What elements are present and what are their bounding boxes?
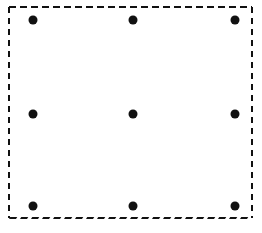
- dot-row3-col2: [129, 202, 138, 211]
- dot-row2-col2: [129, 110, 138, 119]
- border-edge-bottom-segment: [20, 217, 28, 219]
- border-edge-bottom-segment: [53, 217, 61, 219]
- dot-row1-col1: [29, 16, 38, 25]
- border-edge-bottom-segment: [152, 217, 160, 219]
- dot-row1-col3: [231, 16, 240, 25]
- border-edge-bottom: [9, 217, 248, 219]
- border-edge-bottom-segment: [31, 217, 39, 219]
- border-edge-bottom-segment: [97, 217, 105, 219]
- dot-row3-col3: [231, 202, 240, 211]
- border-edge-bottom-segment: [196, 217, 204, 219]
- dot-row2-col3: [231, 110, 240, 119]
- dot-row1-col2: [129, 16, 138, 25]
- border-edge-bottom-segment: [229, 217, 237, 219]
- border-edge-bottom-segment: [119, 217, 127, 219]
- border-edge-bottom-segment: [218, 217, 226, 219]
- border-edge-bottom-segment: [130, 217, 138, 219]
- figure-canvas: [0, 0, 262, 233]
- border-edge-bottom-segment: [42, 217, 50, 219]
- border-edge-bottom-segment: [75, 217, 83, 219]
- border-edge-bottom-segment: [174, 217, 182, 219]
- border-edge-bottom-segment: [141, 217, 149, 219]
- border-edge-bottom-segment: [108, 217, 116, 219]
- border-edge-bottom-segment: [240, 217, 248, 219]
- border-edge-bottom-segment: [86, 217, 94, 219]
- border-edge-bottom-segment: [64, 217, 72, 219]
- border-edge-bottom-segment: [163, 217, 171, 219]
- border-edge-bottom-segment: [9, 217, 17, 219]
- border-edge-bottom-segment: [207, 217, 215, 219]
- border-edge-bottom-segment: [185, 217, 193, 219]
- dot-row3-col1: [29, 202, 38, 211]
- dot-row2-col1: [29, 110, 38, 119]
